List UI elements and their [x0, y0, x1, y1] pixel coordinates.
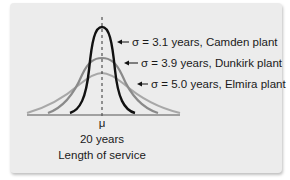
- normal-distributions-diagram: σ = 3.1 years, Camden plant σ = 3.9 year…: [0, 0, 290, 180]
- mean-value-label: 20 years: [80, 133, 124, 145]
- elmira-label: σ = 5.0 years, Elmira plant: [151, 78, 286, 90]
- camden-curve: [70, 27, 135, 113]
- camden-label: σ = 3.1 years, Camden plant: [132, 36, 278, 48]
- arrow-icon: [137, 82, 148, 87]
- dunkirk-label: σ = 3.9 years, Dunkirk plant: [141, 57, 283, 69]
- arrow-icon: [124, 61, 138, 66]
- axis-title: Length of service: [58, 149, 146, 161]
- arrow-icon: [117, 40, 129, 45]
- mu-label: μ: [99, 117, 106, 129]
